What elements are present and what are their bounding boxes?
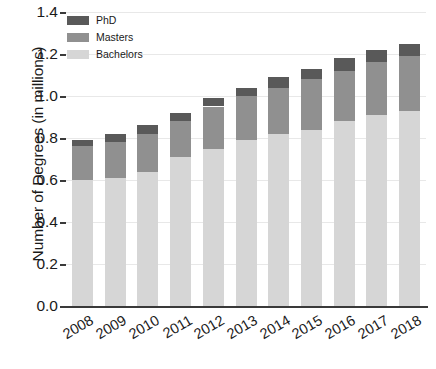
y-tick-label: 0.0 xyxy=(0,297,58,315)
bar-segment-phd[interactable] xyxy=(268,77,289,88)
bar-segment-phd[interactable] xyxy=(203,98,224,106)
bar-segment-phd[interactable] xyxy=(334,58,355,71)
bar-segment-masters[interactable] xyxy=(366,62,387,115)
degrees-stacked-bar-chart: Number of Degrees (in millions) 0.00.20.… xyxy=(0,0,436,369)
bar-segment-bachelors[interactable] xyxy=(72,180,93,306)
legend-item-phd[interactable]: PhD xyxy=(67,13,143,27)
bar-segment-masters[interactable] xyxy=(137,134,158,172)
legend-item-masters[interactable]: Masters xyxy=(67,30,143,44)
legend-swatch-phd xyxy=(67,16,89,25)
bar-stack[interactable] xyxy=(301,12,322,306)
bar-stack[interactable] xyxy=(268,12,289,306)
bar-segment-bachelors[interactable] xyxy=(366,115,387,306)
bar-segment-masters[interactable] xyxy=(170,121,191,157)
bar-segment-bachelors[interactable] xyxy=(236,140,257,306)
bar-segment-bachelors[interactable] xyxy=(301,130,322,306)
bar-segment-bachelors[interactable] xyxy=(170,157,191,306)
legend-label: PhD xyxy=(96,15,116,26)
legend-swatch-bachelors xyxy=(67,50,89,59)
y-tick-label: 1.4 xyxy=(0,3,58,21)
x-tick-label: 2018 xyxy=(381,312,424,346)
legend-item-bachelors[interactable]: Bachelors xyxy=(67,47,143,61)
bar-segment-bachelors[interactable] xyxy=(268,134,289,306)
chart-legend: PhDMastersBachelors xyxy=(67,13,143,64)
bar-segment-phd[interactable] xyxy=(137,125,158,133)
bar-segment-bachelors[interactable] xyxy=(334,121,355,306)
bar-segment-masters[interactable] xyxy=(72,146,93,180)
bar-segment-masters[interactable] xyxy=(399,56,420,111)
y-axis-title: Number of Degrees (in millions) xyxy=(29,24,47,284)
bar-stack[interactable] xyxy=(170,12,191,306)
bar-segment-phd[interactable] xyxy=(236,88,257,96)
bar-segment-phd[interactable] xyxy=(105,134,126,142)
bar-stack[interactable] xyxy=(334,12,355,306)
bar-segment-bachelors[interactable] xyxy=(203,149,224,307)
x-axis-line xyxy=(60,306,428,308)
bar-stack[interactable] xyxy=(366,12,387,306)
bar-segment-masters[interactable] xyxy=(301,79,322,129)
bar-segment-masters[interactable] xyxy=(268,88,289,134)
bar-segment-masters[interactable] xyxy=(334,71,355,121)
bar-segment-bachelors[interactable] xyxy=(399,111,420,306)
bar-segment-masters[interactable] xyxy=(236,96,257,140)
legend-label: Bachelors xyxy=(96,49,143,60)
bar-segment-phd[interactable] xyxy=(301,69,322,80)
bar-segment-phd[interactable] xyxy=(366,50,387,63)
bar-segment-masters[interactable] xyxy=(105,142,126,178)
bar-segment-phd[interactable] xyxy=(72,140,93,146)
legend-label: Masters xyxy=(96,32,133,43)
bar-segment-bachelors[interactable] xyxy=(137,172,158,306)
bar-stack[interactable] xyxy=(236,12,257,306)
bar-stack[interactable] xyxy=(399,12,420,306)
bar-stack[interactable] xyxy=(203,12,224,306)
bar-segment-bachelors[interactable] xyxy=(105,178,126,306)
legend-swatch-masters xyxy=(67,33,89,42)
bar-segment-phd[interactable] xyxy=(170,113,191,121)
bar-segment-masters[interactable] xyxy=(203,107,224,149)
bar-segment-phd[interactable] xyxy=(399,44,420,57)
